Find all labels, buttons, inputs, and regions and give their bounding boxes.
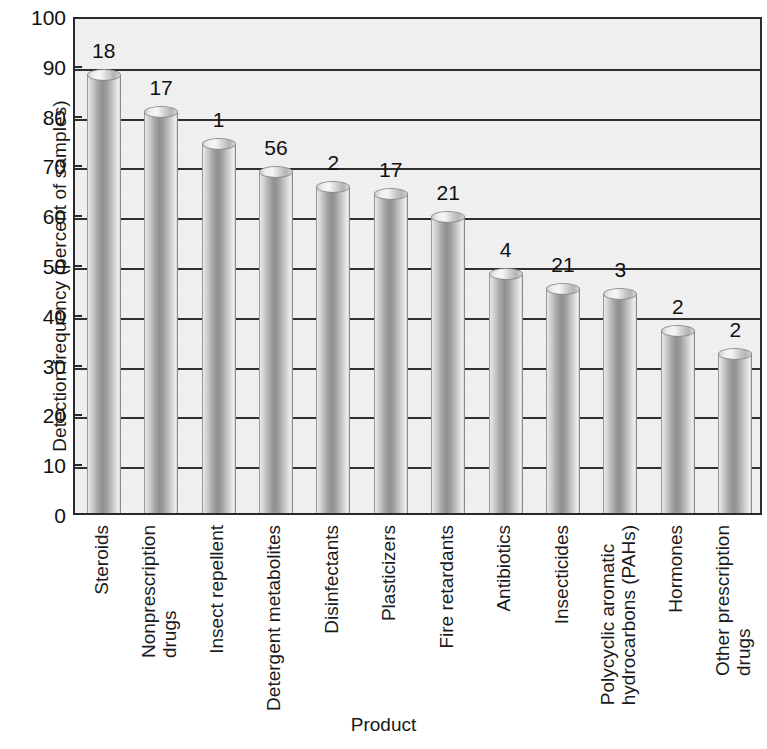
x-tick-label-line: Plasticizers — [378, 525, 399, 621]
x-tick-label: Detergent metabolites — [263, 525, 284, 711]
x-tick-label-line: hydrocarbons (PAHs) — [618, 525, 639, 705]
x-tick-label-line: Detergent metabolites — [263, 525, 284, 711]
x-tick-label-line: drugs — [159, 525, 180, 658]
y-tick-mark — [73, 165, 82, 167]
bar: 17 — [374, 194, 408, 513]
bar: 1 — [202, 144, 236, 513]
y-tick-mark — [73, 414, 82, 416]
bar-body — [316, 187, 350, 513]
bar-value-label: 21 — [551, 254, 574, 275]
bar: 2 — [661, 331, 695, 513]
x-tick-label-line: drugs — [733, 525, 754, 676]
y-tick-mark — [73, 215, 82, 217]
bar-top-ellipse — [374, 188, 408, 200]
bar-body — [546, 289, 580, 513]
x-tick-label: Insect repellent — [206, 525, 227, 654]
x-tick-label-line: Insecticides — [551, 525, 572, 624]
bar-value-label: 2 — [729, 319, 741, 340]
bar-top-ellipse — [718, 348, 752, 360]
x-tick-label-line: Hormones — [665, 525, 686, 613]
bar-body — [144, 112, 178, 513]
y-tick-mark — [73, 265, 82, 267]
bar-top-ellipse — [87, 69, 121, 81]
bar-top-ellipse — [489, 268, 523, 280]
bar-body — [489, 274, 523, 513]
bar-body — [603, 294, 637, 513]
bar-value-label: 56 — [264, 137, 287, 158]
bar-series: 181715621721421322 — [75, 19, 760, 513]
plot-area: 181715621721421322 — [73, 17, 762, 515]
bar-top-ellipse — [202, 138, 236, 150]
x-tick-label: Antibiotics — [493, 525, 514, 612]
bar-top-ellipse — [144, 106, 178, 118]
bar: 2 — [718, 354, 752, 513]
bar-top-ellipse — [431, 211, 465, 223]
x-tick-label-line: Fire retardants — [436, 525, 457, 649]
x-tick-label: Insecticides — [551, 525, 572, 624]
bar-chart-figure: Detection frequency (percent of samples)… — [0, 0, 767, 749]
bar-body — [259, 172, 293, 513]
bar-body — [87, 75, 121, 513]
bar-top-ellipse — [546, 283, 580, 295]
bar-value-label: 2 — [328, 152, 340, 173]
y-tick-mark — [73, 464, 82, 466]
x-tick-label-line: Disinfectants — [321, 525, 342, 634]
x-tick-label: Steroids — [91, 525, 112, 595]
bar-value-label: 18 — [92, 40, 115, 61]
x-tick-label: Hormones — [665, 525, 686, 613]
bar-body — [661, 331, 695, 513]
x-tick-label: Other prescriptiondrugs — [712, 525, 754, 676]
y-tick-mark — [73, 66, 82, 68]
bar: 3 — [603, 294, 637, 513]
x-tick-label-line: Steroids — [91, 525, 112, 595]
x-tick-label-line: Antibiotics — [493, 525, 514, 612]
bar-body — [202, 144, 236, 513]
x-tick-label: Polycyclic aromatichydrocarbons (PAHs) — [597, 525, 639, 705]
x-tick-label: Plasticizers — [378, 525, 399, 621]
x-tick-label-line: Insect repellent — [206, 525, 227, 654]
bar: 2 — [316, 187, 350, 513]
x-tick-label-line: Polycyclic aromatic — [597, 544, 618, 706]
bar-top-ellipse — [661, 325, 695, 337]
bar-value-label: 2 — [672, 296, 684, 317]
bar-value-label: 17 — [149, 77, 172, 98]
bar: 21 — [431, 217, 465, 513]
y-tick-mark — [73, 116, 82, 118]
bar-value-label: 1 — [213, 109, 225, 130]
x-tick-label: Fire retardants — [436, 525, 457, 649]
bar: 18 — [87, 75, 121, 513]
bar-value-label: 17 — [379, 159, 402, 180]
bar-value-label: 21 — [437, 182, 460, 203]
x-tick-label-line: Other prescription — [712, 525, 733, 676]
x-tick-label-line: Nonprescription — [138, 525, 159, 658]
bar-top-ellipse — [316, 181, 350, 193]
x-axis-title: Product — [0, 714, 767, 736]
y-tick-mark — [73, 365, 82, 367]
bar: 17 — [144, 112, 178, 513]
bar-body — [718, 354, 752, 513]
x-tick-label: Nonprescriptiondrugs — [138, 525, 180, 658]
bar-top-ellipse — [603, 288, 637, 300]
bar-body — [374, 194, 408, 513]
bar: 21 — [546, 289, 580, 513]
y-tick-mark — [73, 315, 82, 317]
bar-value-label: 4 — [500, 239, 512, 260]
bar: 4 — [489, 274, 523, 513]
x-tick-label: Disinfectants — [321, 525, 342, 634]
bar-body — [431, 217, 465, 513]
bar-value-label: 3 — [615, 259, 627, 280]
bar-top-ellipse — [259, 166, 293, 178]
bar: 56 — [259, 172, 293, 513]
